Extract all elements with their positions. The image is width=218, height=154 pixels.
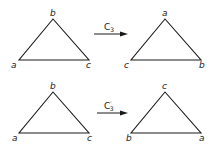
vertex-label-top: b xyxy=(50,81,56,91)
vertex-label-top: b xyxy=(50,8,56,18)
row-2: b a c C′3 c b a xyxy=(12,81,205,143)
arrow-head-icon xyxy=(120,32,128,37)
triangle-after-row-2: c b a xyxy=(126,81,205,143)
operation-arrow-row-1: C3 xyxy=(94,22,128,37)
vertex-label-right: b xyxy=(199,60,205,70)
triangle-shape xyxy=(131,19,201,60)
vertex-label-right: a xyxy=(199,133,205,143)
triangle-shape xyxy=(19,19,89,60)
row-1: b a c C3 a c b xyxy=(11,8,205,70)
operation-label: C′3 xyxy=(104,100,114,112)
triangle-before-row-1: b a c xyxy=(11,8,91,70)
operation-arrow-row-2: C′3 xyxy=(97,100,128,116)
triangle-shape xyxy=(19,92,89,133)
vertex-label-left: b xyxy=(126,133,132,143)
triangle-after-row-1: a c b xyxy=(124,8,205,70)
vertex-label-left: a xyxy=(11,60,17,70)
triangle-before-row-2: b a c xyxy=(12,81,92,143)
vertex-label-right: c xyxy=(86,60,91,70)
operation-label: C3 xyxy=(104,22,114,33)
vertex-label-left: a xyxy=(12,133,18,143)
vertex-label-top: c xyxy=(162,81,167,91)
vertex-label-left: c xyxy=(124,60,129,70)
vertex-label-right: c xyxy=(87,133,92,143)
triangle-shape xyxy=(131,92,201,133)
arrow-head-icon xyxy=(120,111,128,116)
symmetry-operation-diagram: b a c C3 a c b b a c xyxy=(0,0,218,154)
vertex-label-top: a xyxy=(162,8,168,18)
